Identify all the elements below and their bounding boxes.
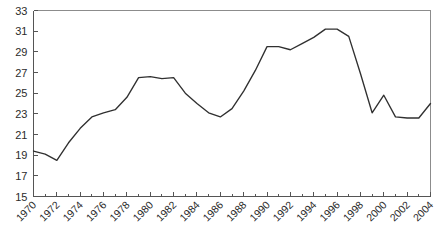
data-series-line bbox=[34, 29, 431, 160]
x-tick-label: 1992 bbox=[270, 198, 295, 223]
x-tick-label: 2000 bbox=[364, 198, 389, 223]
x-tick-label: 1972 bbox=[37, 198, 62, 223]
x-tick-label: 1980 bbox=[130, 198, 155, 223]
x-axis-tick-labels: 1970197219741976197819801982198419861988… bbox=[13, 198, 435, 223]
x-tick-label: 1974 bbox=[60, 198, 85, 223]
x-tick-label: 1976 bbox=[83, 198, 108, 223]
x-tick-label: 1998 bbox=[340, 198, 365, 223]
x-tick-label: 1990 bbox=[247, 198, 272, 223]
x-tick-label: 1988 bbox=[224, 198, 249, 223]
plot-frame bbox=[34, 11, 431, 197]
y-tick-label: 29 bbox=[15, 46, 27, 58]
y-tick-label: 17 bbox=[15, 170, 27, 182]
y-tick-label: 21 bbox=[15, 129, 27, 141]
x-tick-label: 1984 bbox=[177, 198, 202, 223]
y-axis-tick-labels: 15171921232527293133 bbox=[15, 5, 27, 203]
line-chart: 15171921232527293133 1970197219741976197… bbox=[0, 0, 447, 246]
y-tick-label: 33 bbox=[15, 5, 27, 17]
y-tick-label: 25 bbox=[15, 87, 27, 99]
y-tick-label: 15 bbox=[15, 191, 27, 203]
y-tick-label: 19 bbox=[15, 149, 27, 161]
x-tick-label: 2002 bbox=[387, 198, 412, 223]
y-axis-ticks bbox=[34, 11, 38, 197]
chart-canvas: 15171921232527293133 1970197219741976197… bbox=[0, 0, 447, 246]
x-tick-label: 1994 bbox=[294, 198, 319, 223]
x-axis-ticks bbox=[34, 192, 431, 197]
x-tick-label: 2004 bbox=[410, 198, 435, 223]
x-tick-label: 1982 bbox=[154, 198, 179, 223]
x-tick-label: 1996 bbox=[317, 198, 342, 223]
y-tick-label: 31 bbox=[15, 25, 27, 37]
y-tick-label: 23 bbox=[15, 108, 27, 120]
x-tick-label: 1986 bbox=[200, 198, 225, 223]
x-tick-label: 1978 bbox=[107, 198, 132, 223]
y-tick-label: 27 bbox=[15, 67, 27, 79]
